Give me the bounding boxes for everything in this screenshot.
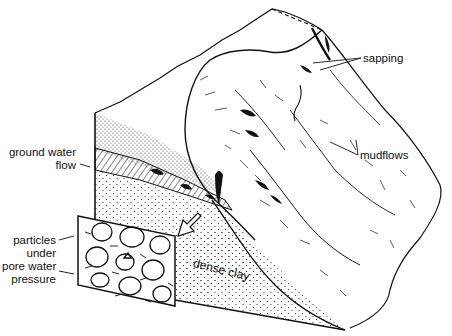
label-sapping: sapping [363, 52, 403, 65]
label-mudflows: mudflows [360, 149, 409, 162]
dense-clay-wedge [175, 225, 345, 330]
label-particles-line1: particles [2, 234, 56, 247]
seepage-marks [215, 35, 330, 205]
label-particles-line3: pore water [2, 260, 56, 273]
label-ground-water-flow: ground water flow [2, 146, 76, 172]
label-ground-water-flow-line1: ground water [2, 146, 76, 159]
label-particles-under-pore-water-pressure: particles under pore water pressure [2, 234, 56, 286]
label-ground-water-flow-line2: flow [2, 159, 76, 172]
label-particles-line4: pressure [2, 273, 56, 286]
label-particles-line2: under [2, 247, 56, 260]
